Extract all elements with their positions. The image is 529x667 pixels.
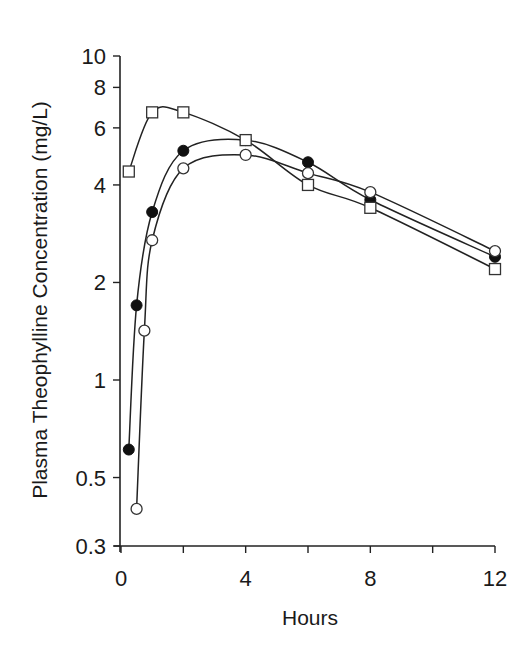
open-circle-marker [303,168,314,179]
x-tick-label: 12 [483,566,507,591]
open-square-marker [240,135,251,146]
open-square-marker [303,179,314,190]
x-tick-label: 8 [364,566,376,591]
open-circle-marker [139,325,150,336]
y-axis-title: Plasma Theophylline Concentration (mg/L) [28,101,51,499]
open-square-marker [365,202,376,213]
open-circle-marker [490,246,501,257]
series-line [137,155,495,509]
open-square-marker [123,166,134,177]
open-circle-marker [365,187,376,198]
filled-circle-marker [303,157,314,168]
y-tick-label: 10 [82,44,106,69]
filled-circle-marker [123,444,134,455]
y-tick-label: 6 [94,116,106,141]
y-tick-label: 0.5 [75,466,106,491]
y-tick-label: 1 [94,368,106,393]
open-circle-marker [178,163,189,174]
x-tick-label: 0 [115,566,127,591]
open-circle-marker [131,503,142,514]
open-circle-marker [147,235,158,246]
theophylline-chart: 0.30.5124681004812 Hours Plasma Theophyl… [0,0,529,667]
open-square-marker [178,107,189,118]
open-square-marker [490,264,501,275]
y-tick-label: 0.3 [75,534,106,559]
filled-circle-marker [178,145,189,156]
filled-circle-marker [147,207,158,218]
x-axis-title: Hours [282,606,338,629]
series-markers [123,107,500,515]
open-square-marker [147,107,158,118]
filled-circle-marker [131,300,142,311]
y-tick-label: 4 [94,173,106,198]
open-circle-marker [240,149,251,160]
y-tick-label: 8 [94,75,106,100]
x-tick-label: 4 [240,566,252,591]
y-tick-label: 2 [94,270,106,295]
